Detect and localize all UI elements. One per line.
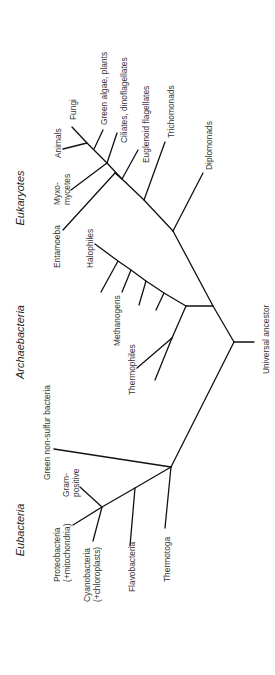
domain-label-eukaryotes: Eukaryotes — [14, 170, 26, 226]
taxon-labels: FungiAnimalsGreen algae, plantsCiliates,… — [42, 52, 271, 602]
branch-methanogen-3 — [139, 281, 146, 305]
taxon-label-diplomonads: Diplomonads — [204, 121, 214, 170]
taxon-label-thermophiles: Thermophiles — [127, 344, 137, 395]
taxon-label-animals: Animals — [53, 128, 63, 158]
taxon-line: mycetes — [62, 174, 72, 205]
tree-branches — [54, 127, 254, 546]
taxon-line: positive — [71, 468, 81, 497]
taxon-line: Trichomonads — [166, 85, 176, 138]
taxon-line: (+chloroplasts) — [92, 547, 102, 602]
branch-myxomycetes-branch — [71, 163, 107, 190]
branch-root-to-eukarya-archaea — [173, 231, 234, 342]
taxon-line: Green non-sulfur bacteria — [42, 385, 52, 480]
branch-methanogen-1 — [101, 261, 118, 292]
taxon-line: Myxo- — [52, 182, 62, 205]
branch-methanogen-2 — [122, 270, 131, 292]
taxon-line: Universal ancestor — [261, 304, 271, 374]
taxon-label-green-non-sulfur-bacteria: Green non-sulfur bacteria — [42, 385, 52, 480]
branch-flavobacteria-branch — [130, 488, 135, 546]
taxon-line: Euglenoid flagellates — [141, 86, 151, 163]
taxon-line: Proteobacteria — [52, 527, 62, 582]
taxon-label-entamoeba: Entamoeba — [52, 225, 62, 268]
taxon-label-euglenoid-flagellates: Euglenoid flagellates — [141, 86, 151, 163]
taxon-line: Thermotoga — [162, 537, 172, 582]
taxon-line: Flavobacteria — [127, 541, 137, 592]
taxon-line: Halophiles — [85, 229, 95, 268]
branch-euglenoid-branch — [122, 150, 138, 179]
branch-gram-positive-branch — [80, 487, 102, 507]
domain-label-eubacteria: Eubacteria — [14, 504, 26, 557]
taxon-line: Diplomonads — [204, 121, 214, 170]
taxon-label-proteobacteria: Proteobacteria(+mitochondria) — [52, 523, 72, 582]
taxon-label-fungi: Fungi — [68, 99, 78, 120]
taxon-label-cyanobacteria: Cyanobacteria(+chloroplasts) — [82, 547, 102, 602]
branch-diplomonads-branch — [173, 173, 203, 231]
branch-root-to-bacteria — [171, 342, 234, 467]
taxon-label-thermotoga: Thermotoga — [162, 537, 172, 582]
taxon-line: Thermophiles — [127, 344, 137, 395]
taxon-line: Methanogens — [112, 295, 122, 346]
branch-bacteria-spine — [73, 467, 171, 525]
branch-thermotoga-branch — [165, 467, 171, 528]
taxon-line: Green algae, plants — [99, 52, 109, 125]
branch-thermophile-2 — [155, 338, 172, 380]
taxon-label-halophiles: Halophiles — [85, 229, 95, 268]
taxon-label-gram-positive: Gram-positive — [61, 468, 81, 497]
branch-ciliates-branch — [107, 133, 117, 163]
taxon-line: Fungi — [68, 99, 78, 120]
domain-labels: EukaryotesArchaebacteriaEubacteria — [14, 170, 26, 556]
taxon-line: Animals — [53, 128, 63, 158]
taxon-label-flavobacteria: Flavobacteria — [127, 541, 137, 592]
branch-archaea-spine — [95, 244, 186, 306]
phylogenetic-tree: EukaryotesArchaebacteriaEubacteria Fungi… — [0, 0, 275, 675]
taxon-label-myxomycetes: Myxo-mycetes — [52, 174, 72, 205]
domain-label-archaebacteria: Archaebacteria — [14, 305, 26, 380]
taxon-label-ciliates-dinoflagellates: Ciliates, dinoflagellates — [119, 57, 129, 143]
taxon-line: Cyanobacteria — [82, 548, 92, 602]
branch-green-algae-branch — [94, 130, 103, 149]
taxon-label-universal-ancestor: Universal ancestor — [261, 304, 271, 374]
branch-methanogen-4 — [156, 293, 164, 310]
taxon-line: (+mitochondria) — [62, 523, 72, 582]
taxon-label-trichomonads: Trichomonads — [166, 85, 176, 138]
branch-thermophile-stem — [172, 306, 186, 338]
branch-animals-branch — [63, 143, 87, 149]
taxon-line: Ciliates, dinoflagellates — [119, 57, 129, 143]
taxon-label-methanogens: Methanogens — [112, 295, 122, 346]
branch-green-non-sulfur-branch — [54, 449, 171, 467]
branch-thermophile-1 — [137, 338, 172, 368]
taxon-label-green-algae-plants: Green algae, plants — [99, 52, 109, 125]
branch-entamoeba-stem — [115, 173, 122, 179]
taxon-line: Gram- — [61, 473, 71, 497]
taxon-line: Entamoeba — [52, 225, 62, 268]
